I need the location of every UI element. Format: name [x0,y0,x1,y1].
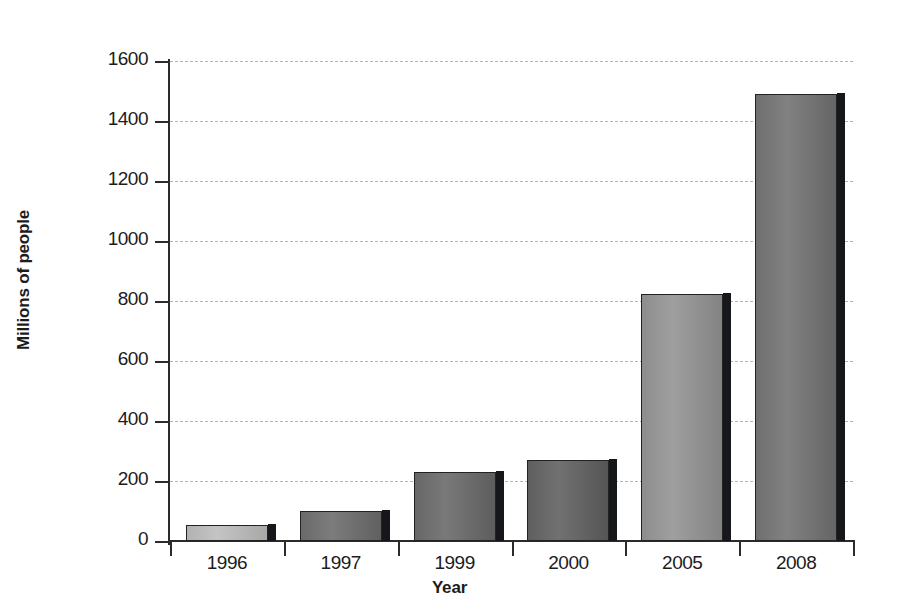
x-tick-mark [853,542,855,556]
x-tick-mark [170,542,172,556]
y-tick-label: 1400 [48,108,148,130]
x-tick-label: 1997 [281,552,401,574]
y-tick-label: 800 [48,288,148,310]
x-tick-mark [512,542,514,556]
x-axis-title: Year [0,578,899,598]
y-axis-title: Millions of people [14,180,34,380]
x-tick-mark [739,542,741,556]
y-tick-label: 600 [48,348,148,370]
bar [300,511,382,541]
x-tick-mark [625,542,627,556]
bar-chart: Millions of people 020040060080010001200… [0,0,899,615]
x-tick-label: 2008 [736,552,856,574]
x-tick-label: 1996 [167,552,287,574]
x-tick-label: 2000 [508,552,628,574]
y-tick-mark [155,241,170,243]
y-tick-label: 1000 [48,228,148,250]
bar [527,460,609,541]
bar [641,294,723,542]
bar-shadow [723,293,731,542]
bar-shadow [382,510,390,541]
bar [186,525,268,542]
y-tick-label: 400 [48,408,148,430]
y-tick-label: 0 [48,528,148,550]
y-tick-mark [155,541,170,543]
bar [414,472,496,541]
x-tick-label: 2005 [622,552,742,574]
y-tick-label: 200 [48,468,148,490]
y-tick-label: 1600 [48,48,148,70]
plot-area [170,61,853,541]
y-tick-mark [155,301,170,303]
y-tick-mark [155,481,170,483]
x-tick-mark [284,542,286,556]
x-tick-mark [398,542,400,556]
bar-shadow [268,524,276,542]
y-tick-mark [155,181,170,183]
bar-shadow [837,93,845,541]
bar-shadow [609,459,617,541]
x-tick-label: 1999 [395,552,515,574]
y-tick-mark [155,361,170,363]
y-tick-mark [155,421,170,423]
y-tick-mark [155,61,170,63]
bar [755,94,837,541]
bar-shadow [496,471,504,541]
y-tick-label: 1200 [48,168,148,190]
y-tick-mark [155,121,170,123]
